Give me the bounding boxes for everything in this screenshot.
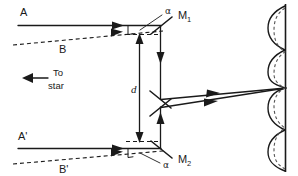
ray-M1-to-inner-arrowhead xyxy=(157,52,165,64)
label-mirror-M2-subscript: 2 xyxy=(187,159,191,168)
label-to-star-line1: To xyxy=(53,67,63,78)
ray-A-arrowhead xyxy=(112,22,124,30)
bottom-incoming-beams xyxy=(13,145,163,165)
ray-M2-to-inner-arrowhead xyxy=(157,112,165,124)
label-beam-A-prime: A' xyxy=(18,130,27,142)
label-mirror-M1-subscript: 1 xyxy=(187,15,191,24)
ray-top-to-screen-arrowhead xyxy=(206,90,220,98)
converging-rays xyxy=(161,88,286,108)
label-alpha-bottom: α xyxy=(163,160,169,170)
alpha-leader-bottom xyxy=(140,153,160,163)
label-beam-A: A xyxy=(20,6,28,18)
interferometer-diagram: A B A' B' α α M 1 M 2 d To star xyxy=(0,0,298,176)
label-mirror-M1: M xyxy=(178,9,187,21)
label-beam-B-prime: B' xyxy=(59,163,68,175)
left-arrow-icon xyxy=(22,73,33,83)
label-alpha-top: α xyxy=(165,6,171,16)
diagram-canvas: A B A' B' α α M 1 M 2 d To star xyxy=(0,0,298,176)
vertical-transfer-rays xyxy=(157,26,165,148)
label-beam-B: B xyxy=(59,43,66,55)
right-angle-tick-top xyxy=(128,26,133,35)
mirror-M2 xyxy=(151,141,172,158)
right-angle-tick-bottom xyxy=(128,149,133,158)
label-to-star-line2: star xyxy=(48,80,64,91)
label-baseline-d: d xyxy=(131,83,137,95)
label-mirror-M2: M xyxy=(178,153,187,165)
to-star-indicator xyxy=(22,73,48,83)
